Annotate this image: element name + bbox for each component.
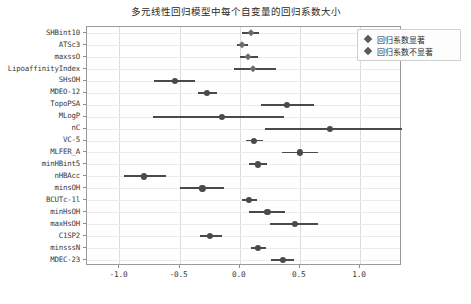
y-axis-tick — [83, 80, 86, 81]
y-axis-tick-label: SHsOH — [0, 75, 80, 84]
y-axis-tick-label: maxssO — [0, 52, 80, 61]
gridline-horizontal — [87, 164, 400, 165]
data-point — [297, 149, 303, 155]
gridline-horizontal — [87, 188, 400, 189]
data-point — [246, 197, 252, 203]
data-point — [207, 233, 213, 239]
y-axis-tick-label: C1SP2 — [0, 231, 80, 240]
data-point — [255, 245, 261, 251]
diamond-icon — [364, 47, 372, 55]
gridline-vertical — [360, 27, 361, 264]
y-axis-tick — [83, 44, 86, 45]
y-axis-tick-label: maxHsOH — [0, 219, 80, 228]
y-axis-tick — [83, 128, 86, 129]
y-axis-tick — [83, 68, 86, 69]
x-axis-tick-label: 0.5 — [292, 270, 305, 279]
figure: 多元线性回归模型中每个自变量的回归系数大小 SHBint10ATSc3maxss… — [0, 0, 471, 304]
gridline-horizontal — [87, 248, 400, 249]
x-axis-tick — [359, 265, 360, 268]
y-axis-tick — [83, 116, 86, 117]
data-point — [264, 209, 270, 215]
y-axis-tick — [83, 163, 86, 164]
gridline-vertical — [119, 27, 120, 264]
data-point — [255, 161, 261, 167]
gridline-vertical — [240, 27, 241, 264]
data-point — [140, 173, 146, 179]
y-axis-tick — [83, 247, 86, 248]
data-point — [251, 137, 257, 143]
data-point — [219, 114, 225, 120]
y-axis-tick-label: MDEO-12 — [0, 87, 80, 96]
y-axis-tick-label: LipoaffinityIndex — [0, 64, 80, 73]
y-axis-tick-label: minHBint5 — [0, 159, 80, 168]
data-point — [247, 29, 255, 37]
gridline-vertical — [300, 27, 301, 264]
y-axis-tick — [83, 235, 86, 236]
y-axis-tick — [83, 140, 86, 141]
gridline-horizontal — [87, 93, 400, 94]
y-axis-tick — [83, 199, 86, 200]
x-axis-tick — [179, 265, 180, 268]
y-axis-tick-label: MLFER_A — [0, 147, 80, 156]
data-point — [249, 65, 257, 73]
y-axis-tick — [83, 187, 86, 188]
gridline-horizontal — [87, 236, 400, 237]
legend-item-not-significant: 回归系数不显著 — [362, 45, 456, 57]
data-point — [244, 53, 252, 61]
x-axis-tick — [118, 265, 119, 268]
error-bar — [265, 128, 402, 130]
gridline-horizontal — [87, 152, 400, 153]
y-axis-tick-label: MDEC-23 — [0, 255, 80, 264]
y-axis-tick-label: nHBAcc — [0, 171, 80, 180]
y-axis-tick — [83, 32, 86, 33]
y-axis-tick-label: minHsOH — [0, 207, 80, 216]
y-axis-tick-label: minsOH — [0, 183, 80, 192]
y-axis-tick-label: minsssN — [0, 243, 80, 252]
y-axis-tick — [83, 56, 86, 57]
y-axis-tick-label: nC — [0, 123, 80, 132]
y-axis-tick-label: TopoPSA — [0, 99, 80, 108]
y-axis-tick-label: ATSc3 — [0, 40, 80, 49]
y-axis-tick — [83, 175, 86, 176]
x-axis-tick-label: -0.5 — [170, 270, 188, 279]
y-axis-tick — [83, 223, 86, 224]
y-axis-tick — [83, 104, 86, 105]
data-point — [172, 78, 178, 84]
data-point — [280, 257, 286, 263]
gridline-horizontal — [87, 81, 400, 82]
gridline-horizontal — [87, 224, 400, 225]
y-axis-tick-label: BCUTc-1l — [0, 195, 80, 204]
x-axis-tick-label: 1.0 — [352, 270, 365, 279]
legend-item-significant: 回归系数显著 — [362, 33, 456, 45]
data-point — [292, 221, 298, 227]
y-axis-tick-label: MLogP — [0, 111, 80, 120]
y-axis-tick — [83, 211, 86, 212]
gridline-horizontal — [87, 105, 400, 106]
y-axis-tick — [83, 151, 86, 152]
data-point — [327, 125, 333, 131]
chart-title: 多元线性回归模型中每个自变量的回归系数大小 — [0, 4, 471, 18]
y-axis-tick-label: SHBint10 — [0, 28, 80, 37]
legend-label-not-significant: 回归系数不显著 — [377, 46, 433, 57]
gridline-horizontal — [87, 260, 400, 261]
y-axis-tick — [83, 92, 86, 93]
y-axis-tick-label: VC-5 — [0, 135, 80, 144]
data-point — [204, 90, 210, 96]
diamond-icon — [364, 35, 372, 43]
gridline-horizontal — [87, 212, 400, 213]
legend: 回归系数显著 回归系数不显著 — [357, 29, 461, 61]
gridline-horizontal — [87, 141, 400, 142]
data-point — [199, 185, 205, 191]
x-axis-tick-label: -1.0 — [109, 270, 127, 279]
x-axis-tick — [299, 265, 300, 268]
plot-area — [86, 26, 401, 265]
data-point — [283, 102, 289, 108]
x-axis-tick-label: 0.0 — [232, 270, 245, 279]
legend-label-significant: 回归系数显著 — [377, 34, 425, 45]
y-axis-tick — [83, 259, 86, 260]
x-axis-tick — [239, 265, 240, 268]
gridline-vertical — [180, 27, 181, 264]
